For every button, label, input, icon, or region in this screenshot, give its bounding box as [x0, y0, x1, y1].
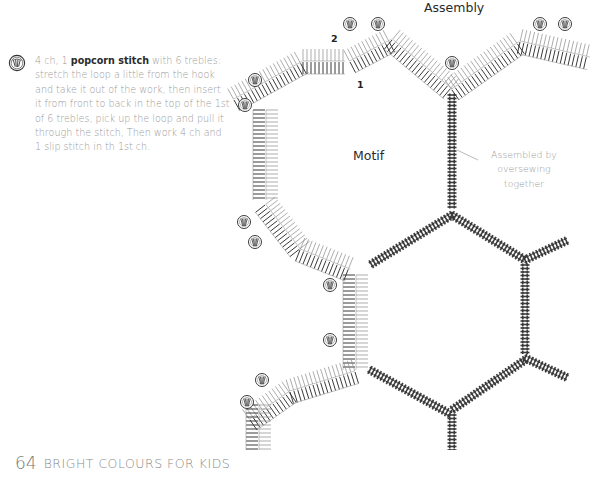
popcorn-stitch-icon: [446, 57, 459, 70]
assembly-annotation: Assembled by oversewing together: [482, 148, 566, 191]
diagram-title: Assembly: [424, 0, 484, 15]
popcorn-stitch-icon: [372, 18, 385, 31]
page-number: 64: [15, 453, 37, 473]
book-title: BRIGHT COLOURS FOR KIDS: [44, 456, 231, 471]
popcorn-stitch-icon: [256, 374, 269, 387]
step-label-1: 1: [357, 79, 364, 90]
popcorn-stitch-icon: [324, 334, 337, 347]
popcorn-stitch-description: 4 ch, 1 popcorn stitch with 6 trebles: s…: [35, 54, 230, 155]
motif-label: Motif: [353, 148, 384, 163]
popcorn-stitch-icon: [559, 18, 572, 31]
popcorn-stitch-icon: [239, 99, 252, 112]
popcorn-stitch-icon: [241, 396, 254, 409]
step-label-2: 2: [331, 33, 338, 44]
stitch-lines: [228, 29, 590, 450]
popcorn-stitch-icon: [344, 18, 357, 31]
popcorn-stitch-icon: [249, 74, 262, 87]
popcorn-stitch-icon: [238, 216, 251, 229]
popcorn-stitch-icon: [8, 54, 26, 72]
assembly-crochet-diagram: [220, 0, 590, 450]
popcorn-stitch-icon: [324, 279, 337, 292]
popcorn-stitch-icon: [249, 236, 262, 249]
popcorn-stitch-icon: [534, 18, 547, 31]
popcorn-stitch-term: popcorn stitch: [71, 55, 149, 66]
page-footer: 64BRIGHT COLOURS FOR KIDS: [15, 453, 230, 473]
